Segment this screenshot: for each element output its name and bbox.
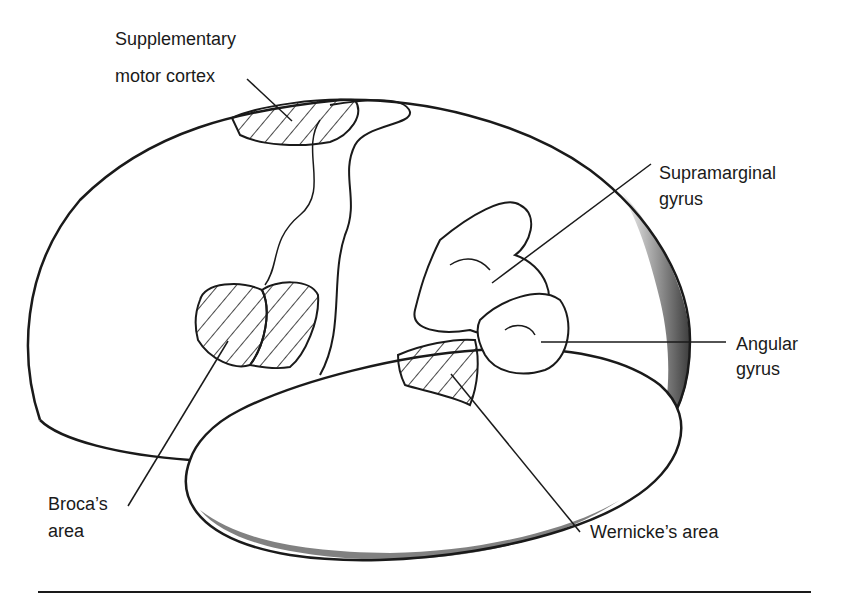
supplementary-motor-cortex-region: [232, 100, 358, 145]
label-supplementary-motor-cortex-1: Supplementary: [115, 29, 236, 49]
label-supplementary-motor-cortex-2: motor cortex: [115, 66, 215, 86]
label-brocas-area-1: Broca’s: [48, 494, 108, 514]
label-angular-gyrus-2: gyrus: [736, 359, 780, 379]
brain-diagram: Supplementary motor cortex Supramarginal…: [0, 0, 851, 593]
label-wernickes-area: Wernicke’s area: [590, 522, 719, 542]
label-supramarginal-gyrus-1: Supramarginal: [659, 163, 776, 183]
label-supramarginal-gyrus-2: gyrus: [659, 189, 703, 209]
label-brocas-area-2: area: [48, 521, 85, 541]
label-angular-gyrus-1: Angular: [736, 334, 798, 354]
